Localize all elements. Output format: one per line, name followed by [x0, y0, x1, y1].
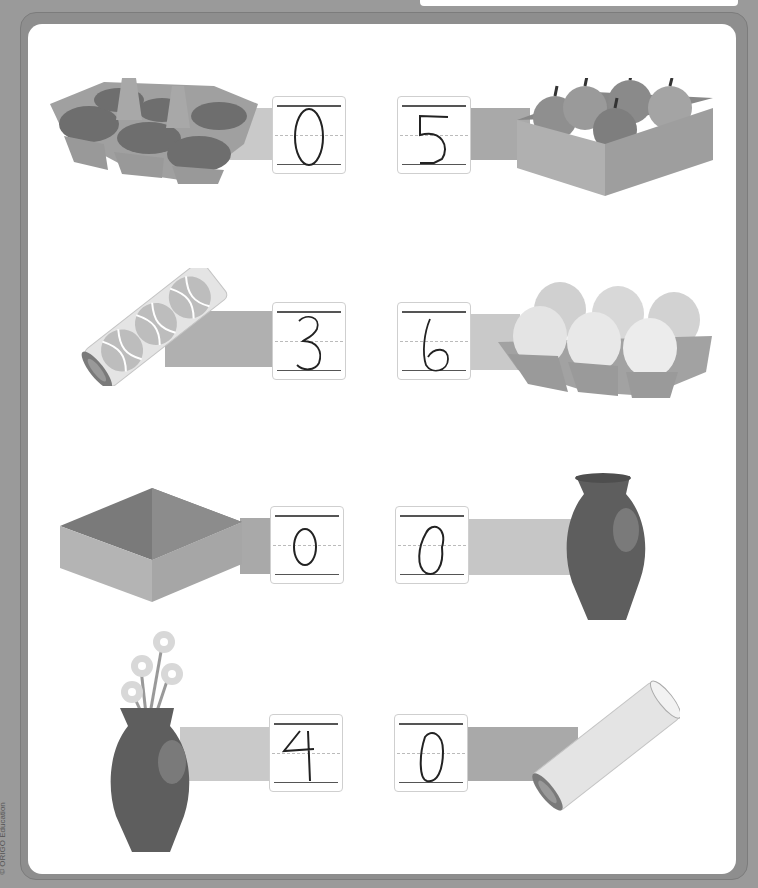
- copyright: © ORIGO Education: [0, 800, 14, 880]
- empty-box-icon: [60, 486, 242, 604]
- empty-egg-carton-icon: [44, 74, 264, 186]
- carton-of-eggs-icon: [498, 280, 714, 398]
- handwritten-digit: [395, 715, 469, 793]
- page-tab: [420, 0, 738, 6]
- vase-icon: [562, 472, 648, 622]
- copyright-text: © ORIGO Education: [0, 802, 7, 875]
- handwritten-digit: [396, 507, 470, 585]
- answer-box-4-left[interactable]: [269, 714, 343, 792]
- handwritten-digit: [270, 715, 344, 793]
- tube-of-tennis-balls-icon: [74, 268, 230, 386]
- answer-box-2-right[interactable]: [397, 302, 471, 380]
- answer-box-2-left[interactable]: [272, 302, 346, 380]
- band-3-right: [468, 519, 573, 575]
- handwritten-digit: [271, 507, 345, 585]
- handwritten-digit: [398, 97, 472, 175]
- handwritten-digit: [273, 97, 347, 175]
- empty-tube-icon: [530, 680, 680, 814]
- handwritten-digit: [273, 303, 347, 381]
- answer-box-3-right[interactable]: [395, 506, 469, 584]
- answer-box-4-right[interactable]: [394, 714, 468, 792]
- box-of-apples-icon: [515, 78, 715, 196]
- handwritten-digit: [398, 303, 472, 381]
- answer-box-1-left[interactable]: [272, 96, 346, 174]
- answer-box-3-left[interactable]: [270, 506, 344, 584]
- vase-with-flowers-icon: [106, 626, 206, 856]
- answer-box-1-right[interactable]: [397, 96, 471, 174]
